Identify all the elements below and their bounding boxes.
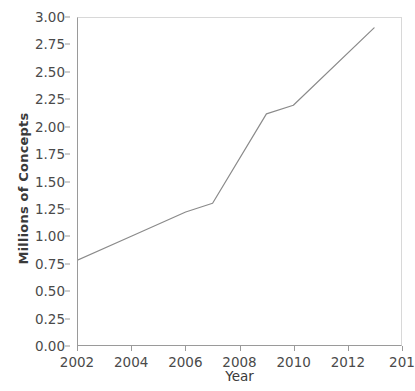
y-axis-tick-label: 3.00 xyxy=(35,10,65,24)
y-axis-title: Millions of Concepts xyxy=(16,104,31,274)
y-axis-tick-label: 1.00 xyxy=(35,229,65,243)
y-axis-tick-mark xyxy=(65,291,70,292)
x-axis-tick-label: 2002 xyxy=(60,355,94,369)
y-axis-tick-mark xyxy=(65,17,70,18)
y-axis: 0.000.250.500.751.001.251.501.752.002.25… xyxy=(0,0,77,391)
y-axis-tick-label: 0.75 xyxy=(35,257,65,271)
y-axis-tick-label: 2.75 xyxy=(35,37,65,51)
y-axis-tick-label: 2.00 xyxy=(35,120,65,134)
y-axis-tick-label: 1.25 xyxy=(35,202,65,216)
x-axis-tick-label: 2010 xyxy=(276,355,310,369)
y-axis-tick-label: 1.75 xyxy=(35,147,65,161)
x-axis-tick-mark xyxy=(185,346,186,351)
y-axis-tick-mark xyxy=(65,126,70,127)
y-axis-tick-mark xyxy=(65,236,70,237)
x-axis-tick-mark xyxy=(294,346,295,351)
y-axis-tick-label: 2.50 xyxy=(35,65,65,79)
x-axis-tick-label: 2012 xyxy=(331,355,365,369)
y-axis-tick-mark xyxy=(65,99,70,100)
y-axis-tick-label: 2.25 xyxy=(35,92,65,106)
x-axis-tick-mark xyxy=(348,346,349,351)
x-axis-tick-label: 201 xyxy=(389,355,415,369)
x-axis-tick-label: 2008 xyxy=(222,355,256,369)
data-series-line xyxy=(78,28,374,260)
y-axis-tick-mark xyxy=(65,71,70,72)
y-axis-tick-mark xyxy=(65,318,70,319)
x-axis-tick-mark xyxy=(240,346,241,351)
y-axis-tick-mark xyxy=(65,154,70,155)
y-axis-tick-mark xyxy=(65,263,70,264)
y-axis-tick-mark xyxy=(65,44,70,45)
y-axis-tick-label: 0.25 xyxy=(35,312,65,326)
y-axis-tick-mark xyxy=(65,208,70,209)
y-axis-tick-mark xyxy=(65,181,70,182)
plot-area xyxy=(77,17,402,346)
x-axis-title: Year xyxy=(77,368,402,384)
data-line-svg xyxy=(78,18,401,345)
x-axis-tick-mark xyxy=(131,346,132,351)
x-axis-tick-mark xyxy=(77,346,78,351)
y-axis-tick-label: 1.50 xyxy=(35,175,65,189)
x-axis-tick-label: 2006 xyxy=(168,355,202,369)
y-axis-tick-label: 0.50 xyxy=(35,284,65,298)
x-axis-tick-label: 2004 xyxy=(114,355,148,369)
x-axis-tick-mark xyxy=(402,346,403,351)
